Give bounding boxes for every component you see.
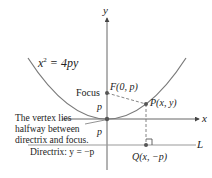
vertex-note-line2: halfway between xyxy=(15,124,89,135)
equation-rest: = 4py xyxy=(47,56,78,70)
focus-point xyxy=(105,91,109,95)
focus-word-label: Focus xyxy=(76,88,100,98)
point-q xyxy=(144,143,148,147)
vertex-note-line1: The vertex lies xyxy=(15,113,89,124)
vertex-point xyxy=(105,117,109,121)
distance-upper-label: p xyxy=(97,102,102,112)
y-axis-label: y xyxy=(103,5,108,16)
point-p-label: P(x, y) xyxy=(150,98,177,108)
focus-point-label: F(0, p) xyxy=(110,82,138,92)
distance-lower-label: p xyxy=(97,127,102,137)
point-q-label: Q(x, −p) xyxy=(132,152,167,162)
point-p xyxy=(144,102,148,106)
line-l-label: L xyxy=(197,139,203,150)
directrix-label: Directrix: y = −p xyxy=(30,148,94,158)
focus-to-p-segment xyxy=(107,93,146,104)
equation-label: x2 = 4py xyxy=(38,57,78,69)
x-axis-label: x xyxy=(202,113,207,124)
vertex-note: The vertex lies halfway between directri… xyxy=(15,113,89,146)
vertex-note-line3: directrix and focus. xyxy=(15,135,89,146)
